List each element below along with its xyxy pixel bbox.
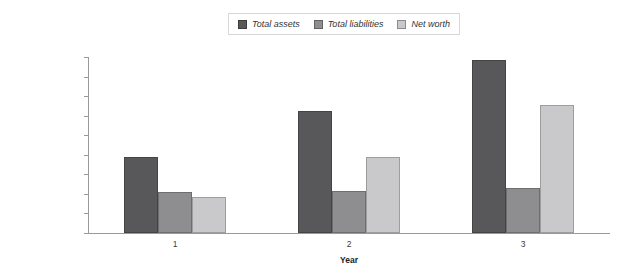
legend-label: Net worth [411, 20, 450, 29]
y-axis-tick-mark [84, 233, 88, 234]
bar-total-assets-year-2[interactable] [298, 111, 332, 233]
x-axis-label-1: 1 [145, 240, 205, 249]
y-axis-tick-mark [84, 174, 88, 175]
x-axis-line [88, 233, 610, 234]
bar-net-worth-year-1[interactable] [192, 197, 226, 233]
y-axis-tick-mark [84, 116, 88, 117]
x-axis-title: Year [88, 256, 610, 265]
y-axis-tick-mark [84, 155, 88, 156]
legend-item-total-liabilities[interactable]: Total liabilities [314, 20, 384, 29]
bar-total-assets-year-1[interactable] [124, 157, 158, 233]
legend-label: Total liabilities [328, 20, 384, 29]
y-axis-tick-mark [84, 96, 88, 97]
bar-group [472, 57, 574, 233]
legend-swatch-icon [238, 20, 247, 29]
chart-legend: Total assetsTotal liabilitiesNet worth [228, 13, 460, 35]
bar-net-worth-year-3[interactable] [540, 105, 574, 233]
bar-group [124, 57, 226, 233]
bar-total-liabilities-year-3[interactable] [506, 188, 540, 233]
plot-area: $0$50,000$100,000$150,000$200,000$250,00… [88, 57, 610, 233]
bar-total-assets-year-3[interactable] [472, 60, 506, 233]
bar-total-liabilities-year-2[interactable] [332, 191, 366, 233]
y-axis-tick-mark [84, 77, 88, 78]
y-axis-line [88, 57, 89, 233]
y-axis-tick-mark [84, 194, 88, 195]
bar-group [298, 57, 400, 233]
x-axis-label-3: 3 [493, 240, 553, 249]
y-axis-tick-mark [84, 57, 88, 58]
x-axis-label-2: 2 [319, 240, 379, 249]
legend-item-net-worth[interactable]: Net worth [397, 20, 450, 29]
y-axis-tick-mark [84, 135, 88, 136]
legend-swatch-icon [314, 20, 323, 29]
legend-label: Total assets [252, 20, 300, 29]
bar-net-worth-year-2[interactable] [366, 157, 400, 233]
bar-total-liabilities-year-1[interactable] [158, 192, 192, 233]
y-axis-tick-mark [84, 213, 88, 214]
legend-item-total-assets[interactable]: Total assets [238, 20, 300, 29]
legend-swatch-icon [397, 20, 406, 29]
